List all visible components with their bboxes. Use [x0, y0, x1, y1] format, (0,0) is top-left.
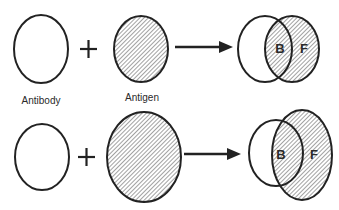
antibody-antigen-complex: B F — [249, 110, 332, 200]
row-large-antigen: B F — [15, 110, 332, 202]
antibody-shape — [15, 124, 69, 190]
antigen-label: Antigen — [125, 92, 159, 103]
antibody-antigen-diagram: B F Antibody Antigen B F — [0, 0, 339, 210]
bound-label: B — [276, 147, 285, 162]
free-label: F — [310, 147, 318, 162]
row-small-antigen: B F — [14, 15, 319, 83]
plus-sign — [78, 148, 95, 166]
antibody-label: Antibody — [22, 95, 61, 106]
plus-sign — [80, 40, 97, 58]
arrow-right-icon — [175, 41, 233, 53]
free-label: F — [300, 41, 308, 56]
antigen-shape — [107, 112, 181, 202]
antigen-shape — [114, 16, 168, 82]
antibody-antigen-complex: B F — [238, 16, 319, 82]
antibody-shape — [14, 15, 68, 83]
arrow-right-icon — [184, 148, 241, 160]
bound-label: B — [275, 41, 284, 56]
